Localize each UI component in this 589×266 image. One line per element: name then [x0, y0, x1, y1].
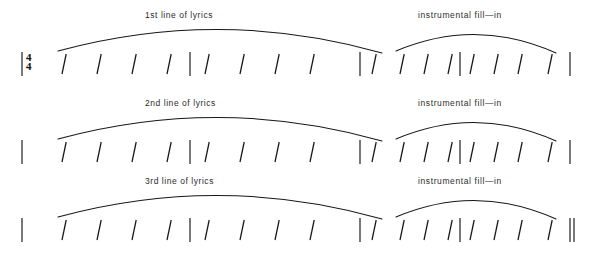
beat-slash [448, 142, 452, 162]
beat-slash [518, 54, 522, 74]
beat-slash [62, 220, 66, 240]
beat-slash [275, 142, 279, 162]
music-system: 1st line of lyricsinstrumental fill—in44 [0, 0, 589, 90]
beat-slash [470, 54, 474, 74]
beat-slash [205, 54, 209, 74]
beat-slash [310, 142, 314, 162]
beat-slash [167, 142, 171, 162]
beat-slash [448, 220, 452, 240]
beat-slash [275, 54, 279, 74]
beat-slash [240, 220, 244, 240]
notation-layer [0, 88, 589, 178]
beat-slash [97, 54, 101, 74]
beat-slash [548, 54, 552, 74]
lyrics-phrase-arc [58, 195, 382, 219]
beat-slash [400, 220, 404, 240]
beat-slash [518, 220, 522, 240]
beat-slash [470, 142, 474, 162]
beat-slash [400, 54, 404, 74]
beat-slash [424, 220, 428, 240]
beat-slash [424, 142, 428, 162]
beat-slash [62, 142, 66, 162]
notation-layer [0, 0, 589, 90]
beat-slash [310, 220, 314, 240]
beat-slash [97, 142, 101, 162]
fill-phrase-arc [396, 34, 556, 53]
beat-slash [205, 220, 209, 240]
beat-slash [275, 220, 279, 240]
beat-slash [240, 142, 244, 162]
beat-slash [470, 220, 474, 240]
beat-slash [167, 220, 171, 240]
beat-slash [494, 54, 498, 74]
lyrics-phrase-arc [58, 29, 382, 53]
beat-slash [132, 142, 136, 162]
beat-slash [448, 54, 452, 74]
beat-slash [494, 220, 498, 240]
beat-slash [400, 142, 404, 162]
beat-slash [372, 54, 376, 74]
beat-slash [494, 142, 498, 162]
notation-layer [0, 166, 589, 256]
fill-phrase-arc [396, 122, 556, 141]
beat-slash [548, 220, 552, 240]
beat-slash [424, 54, 428, 74]
beat-slash [518, 142, 522, 162]
music-system: 2nd line of lyricsinstrumental fill—in [0, 88, 589, 168]
beat-slash [132, 220, 136, 240]
beat-slash [167, 54, 171, 74]
beat-slash [132, 54, 136, 74]
fill-phrase-arc [396, 200, 556, 219]
beat-slash [240, 54, 244, 74]
beat-slash [548, 142, 552, 162]
lyrics-phrase-arc [58, 117, 382, 141]
beat-slash [205, 142, 209, 162]
rhythm-chart-sheet: 1st line of lyricsinstrumental fill—in44… [0, 0, 589, 266]
beat-slash [310, 54, 314, 74]
music-system: 3rd line of lyricsinstrumental fill—in [0, 166, 589, 266]
beat-slash [97, 220, 101, 240]
beat-slash [372, 220, 376, 240]
beat-slash [62, 54, 66, 74]
beat-slash [372, 142, 376, 162]
